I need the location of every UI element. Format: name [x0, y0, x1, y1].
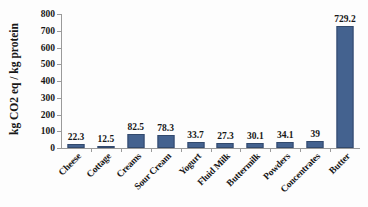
bar-value-label: 34.1	[277, 130, 294, 140]
y-tick-label: 600	[21, 43, 55, 53]
y-tick-label: 800	[21, 9, 55, 19]
bar-value-label: 33.7	[187, 130, 204, 140]
bar-slot: 22.3	[61, 14, 91, 148]
bar[interactable]	[247, 143, 264, 148]
x-label-slot: Butter	[330, 149, 360, 207]
bar[interactable]	[157, 135, 174, 148]
bar-value-label: 82.5	[127, 122, 144, 132]
x-axis-label: Cheese	[57, 151, 83, 177]
x-label-slot: Cottage	[91, 149, 121, 207]
bar-value-label: 729.2	[334, 14, 355, 24]
bar-slot: 30.1	[240, 14, 270, 148]
bar-value-label: 22.3	[68, 132, 85, 142]
plot-area: 0100200300400500600700800 22.312.582.578…	[61, 14, 360, 148]
y-tick-label: 200	[21, 110, 55, 120]
bar[interactable]	[337, 26, 354, 148]
y-tick-label: 0	[21, 143, 55, 153]
bar[interactable]	[97, 146, 114, 148]
x-label-slot: Cheese	[61, 149, 91, 207]
bar[interactable]	[217, 143, 234, 148]
bar-chart: kg CO2 eq / kg protein 01002003004005006…	[0, 0, 368, 207]
y-tick-label: 400	[21, 76, 55, 86]
bar-slot: 12.5	[91, 14, 121, 148]
bar-slot: 33.7	[181, 14, 211, 148]
bar-slot: 78.3	[151, 14, 181, 148]
bar-slot: 729.2	[330, 14, 360, 148]
bar-value-label: 30.1	[247, 131, 264, 141]
bar-value-label: 12.5	[98, 134, 115, 144]
y-tick-label: 300	[21, 93, 55, 103]
bar[interactable]	[307, 141, 324, 148]
y-axis-title-text: kg CO2 eq / kg protein	[8, 23, 20, 135]
bar[interactable]	[187, 142, 204, 148]
bar[interactable]	[277, 142, 294, 148]
y-tick-label: 100	[21, 126, 55, 136]
x-label-slot: Sour Cream	[151, 149, 181, 207]
bar-slot: 39	[300, 14, 330, 148]
bar[interactable]	[67, 144, 84, 148]
y-tick-label: 700	[21, 26, 55, 36]
bar-slot: 27.3	[211, 14, 241, 148]
x-axis-label: Yogurt	[177, 151, 203, 177]
bar-slot: 82.5	[121, 14, 151, 148]
bar[interactable]	[127, 134, 144, 148]
bar-value-label: 39	[310, 129, 320, 139]
x-axis-label: Butter	[327, 151, 352, 176]
y-tick-label: 500	[21, 59, 55, 69]
x-label-slot: Concentrates	[300, 149, 330, 207]
x-axis-labels: CheeseCottageCreamsSour CreamYogurtFluid…	[61, 149, 360, 207]
bar-value-label: 27.3	[217, 131, 234, 141]
bar-value-label: 78.3	[157, 123, 174, 133]
bar-slot: 34.1	[270, 14, 300, 148]
